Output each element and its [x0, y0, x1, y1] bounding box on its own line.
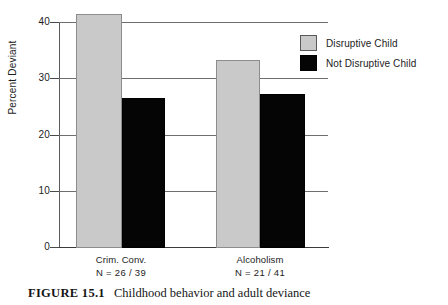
- bar-crim-conv-disruptive: [76, 14, 122, 247]
- y-tick-label-20: 20: [38, 130, 50, 140]
- tick-20: [50, 135, 59, 136]
- y-axis-title: Percent Deviant: [7, 3, 18, 153]
- legend-swatch-gray-icon: [300, 35, 317, 51]
- x-category-crim-conv-name: Crim. Conv.: [96, 254, 147, 265]
- legend-item-not-disruptive: Not Disruptive Child: [300, 54, 440, 72]
- tick-40: [50, 22, 59, 23]
- y-axis-tick-labels: 0 10 20 30 40: [26, 22, 50, 248]
- bar-alcoholism-disruptive: [216, 60, 260, 247]
- bar-alcoholism-not-disruptive: [260, 94, 305, 248]
- tick-30: [50, 78, 59, 79]
- legend-label-not-disruptive: Not Disruptive Child: [326, 58, 416, 69]
- x-category-alcoholism: Alcoholism N = 21 / 41: [200, 254, 320, 279]
- figure-container: 0 10 20 30 40 Percent Deviant Crim. Conv…: [0, 0, 448, 305]
- y-tick-label-30: 30: [38, 73, 50, 83]
- x-category-crim-conv-n: N = 26 / 39: [61, 267, 181, 279]
- legend-item-disruptive: Disruptive Child: [300, 34, 440, 52]
- figure-caption: FIGURE 15.1Childhood behavior and adult …: [28, 286, 310, 300]
- bar-crim-conv-not-disruptive: [122, 98, 165, 248]
- y-tick-label-10: 10: [38, 186, 50, 196]
- legend-label-disruptive: Disruptive Child: [326, 38, 398, 49]
- tick-10: [50, 191, 59, 192]
- x-category-alcoholism-name: Alcoholism: [237, 254, 284, 265]
- chart-legend: Disruptive Child Not Disruptive Child: [300, 34, 440, 74]
- tick-0: [50, 247, 59, 248]
- legend-swatch-black-icon: [300, 55, 317, 71]
- x-category-crim-conv: Crim. Conv. N = 26 / 39: [61, 254, 181, 279]
- figure-caption-text: Childhood behavior and adult deviance: [114, 286, 310, 300]
- x-category-alcoholism-n: N = 21 / 41: [200, 267, 320, 279]
- figure-number: FIGURE 15.1: [28, 286, 105, 300]
- plot-area: [59, 22, 328, 248]
- y-tick-label-40: 40: [38, 17, 50, 27]
